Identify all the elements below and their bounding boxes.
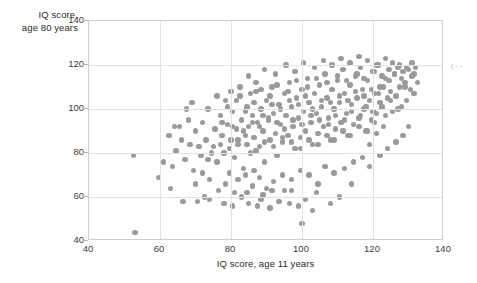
scatter-point (310, 208, 315, 213)
scatter-point (260, 113, 265, 118)
scatter-point (200, 170, 205, 175)
scatter-point (193, 181, 198, 186)
scatter-point (377, 100, 382, 105)
scatter-point (376, 91, 381, 96)
scatter-point (296, 102, 301, 107)
scatter-point (166, 133, 171, 138)
scatter-point (306, 100, 311, 105)
scatter-point (273, 131, 278, 136)
scatter-point (289, 139, 294, 144)
scatter-point (172, 124, 177, 129)
scatter-point (315, 142, 320, 147)
scatter-point (257, 175, 262, 180)
scatter-point (246, 73, 251, 78)
scatter-point (329, 87, 334, 92)
scatter-point (356, 54, 361, 59)
scatter-point (335, 73, 340, 78)
x-axis-tick-label: 40 (73, 243, 103, 254)
scatter-point (200, 120, 205, 125)
scatter-point (303, 128, 308, 133)
scatter-point (296, 115, 301, 120)
scatter-point (193, 128, 198, 133)
gridline-horizontal (89, 65, 442, 66)
plot-area (88, 20, 443, 240)
scatter-point (271, 111, 276, 116)
scatter-point (347, 133, 352, 138)
x-axis-tick-label: 140 (428, 243, 458, 254)
y-axis-tick-mark (83, 20, 88, 21)
scatter-point (289, 188, 294, 193)
scatter-point (399, 76, 404, 81)
scatter-point (251, 168, 256, 173)
scatter-point (255, 203, 260, 208)
scatter-point (251, 100, 256, 105)
scatter-point (415, 80, 420, 85)
scatter-point (203, 137, 208, 142)
scatter-point (365, 58, 370, 63)
scatter-point (367, 98, 372, 103)
scatter-point (314, 190, 319, 195)
scatter-point (326, 115, 331, 120)
scatter-point (337, 93, 342, 98)
scatter-point (324, 80, 329, 85)
scatter-point (319, 98, 324, 103)
scatter-point (250, 113, 255, 118)
scatter-point (168, 186, 173, 191)
scatter-point (345, 98, 350, 103)
scatter-point (266, 115, 271, 120)
scatter-point (340, 67, 345, 72)
scatter-point (241, 128, 246, 133)
scatter-point (244, 190, 249, 195)
scatter-point (308, 120, 313, 125)
scatter-point (324, 133, 329, 138)
scatter-point (400, 133, 405, 138)
scatter-point (317, 82, 322, 87)
scatter-point (180, 199, 185, 204)
x-axis-tick-label: 80 (215, 243, 245, 254)
scatter-point (232, 155, 237, 160)
y-axis-tick-label: 80 (58, 146, 84, 157)
scatter-point (356, 124, 361, 129)
scatter-point (296, 203, 301, 208)
y-axis-tick-label: 100 (58, 102, 84, 113)
scatter-point (234, 98, 239, 103)
scatter-point (292, 69, 297, 74)
scatter-point (235, 137, 240, 142)
scatter-point (287, 98, 292, 103)
scatter-point (360, 155, 365, 160)
scatter-point (211, 144, 216, 149)
scatter-point (216, 188, 221, 193)
scatter-point (274, 120, 279, 125)
scatter-point (342, 166, 347, 171)
y-axis-tick-label: 60 (58, 190, 84, 201)
scatter-point (402, 84, 407, 89)
scatter-point (315, 181, 320, 186)
scatter-point (251, 135, 256, 140)
scatter-point (170, 164, 175, 169)
scatter-point (333, 113, 338, 118)
scatter-points-layer (89, 21, 442, 239)
y-axis-tick-group: 406080100120140 (54, 0, 84, 283)
scatter-point (292, 146, 297, 151)
scatter-point (219, 120, 224, 125)
collapse-arrow-icon[interactable]: ‹·· (450, 58, 463, 73)
y-axis-tick-mark (83, 240, 88, 241)
scatter-point (367, 142, 372, 147)
scatter-point (189, 100, 194, 105)
scatter-point (354, 71, 359, 76)
scatter-point (322, 164, 327, 169)
scatter-point (260, 128, 265, 133)
scatter-point (269, 102, 274, 107)
scatter-point (379, 73, 384, 78)
scatter-point (314, 76, 319, 81)
scatter-point (207, 177, 212, 182)
scatter-point (239, 117, 244, 122)
scatter-point (177, 124, 182, 129)
scatter-point (289, 177, 294, 182)
scatter-point (267, 205, 272, 210)
scatter-point (337, 100, 342, 105)
x-axis-tick-group: 406080100120140 (0, 243, 477, 259)
scatter-point (258, 87, 263, 92)
gridline-vertical (160, 21, 161, 239)
scatter-point (306, 137, 311, 142)
